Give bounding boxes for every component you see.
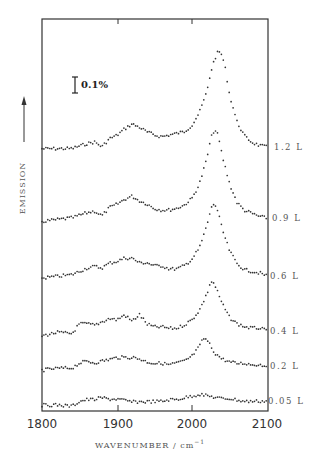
- data-point: [152, 264, 154, 266]
- data-point: [240, 130, 242, 132]
- plot-frame: [42, 19, 268, 411]
- data-point: [76, 365, 78, 367]
- data-point: [123, 127, 125, 129]
- data-point: [68, 333, 70, 335]
- data-point: [166, 363, 168, 365]
- data-point: [61, 147, 63, 149]
- data-point: [203, 233, 205, 235]
- data-point: [131, 194, 133, 196]
- data-point: [195, 314, 197, 316]
- data-point: [150, 402, 152, 404]
- data-point: [105, 143, 107, 145]
- data-point: [185, 204, 187, 206]
- data-point: [80, 400, 82, 402]
- data-point: [133, 318, 135, 320]
- data-point: [211, 347, 213, 349]
- data-point: [78, 363, 80, 365]
- series-label-0-05L: 0.05 L: [268, 396, 304, 406]
- data-point: [68, 148, 70, 150]
- data-point: [191, 354, 193, 356]
- data-point: [49, 276, 51, 278]
- data-point: [152, 363, 154, 365]
- data-point: [205, 393, 207, 395]
- data-point: [84, 400, 86, 402]
- data-point: [111, 205, 113, 207]
- data-point: [232, 255, 234, 257]
- data-point: [154, 363, 156, 365]
- data-point: [256, 328, 258, 330]
- data-point: [248, 139, 250, 141]
- data-point: [80, 144, 82, 146]
- data-point: [168, 135, 170, 137]
- data-point: [84, 360, 86, 362]
- data-point: [260, 402, 262, 404]
- data-point: [172, 398, 174, 400]
- data-point: [156, 326, 158, 328]
- data-point: [166, 399, 168, 401]
- data-point: [211, 134, 213, 136]
- data-point: [90, 398, 92, 400]
- x-tick-label-1800: 1800: [27, 417, 58, 431]
- data-point: [211, 395, 213, 397]
- data-point: [53, 219, 55, 221]
- data-point: [154, 264, 156, 266]
- data-point: [113, 398, 115, 400]
- data-point: [86, 269, 88, 271]
- data-point: [234, 114, 236, 116]
- data-point: [63, 332, 65, 334]
- data-point: [260, 144, 262, 146]
- data-point: [256, 365, 258, 367]
- data-point: [127, 197, 129, 199]
- data-point: [63, 406, 65, 408]
- data-point: [191, 318, 193, 320]
- data-point: [70, 333, 72, 335]
- data-point: [217, 132, 219, 134]
- data-point: [51, 368, 53, 370]
- data-point: [135, 318, 137, 320]
- data-point: [123, 314, 125, 316]
- data-point: [51, 148, 53, 150]
- data-point: [49, 334, 51, 336]
- data-point: [66, 367, 68, 369]
- data-point: [45, 221, 47, 223]
- data-point: [139, 358, 141, 360]
- data-point: [146, 131, 148, 133]
- data-point: [127, 316, 129, 318]
- data-point: [43, 334, 45, 336]
- data-point: [166, 267, 168, 269]
- data-point: [195, 396, 197, 398]
- data-point: [174, 269, 176, 271]
- data-point: [195, 349, 197, 351]
- data-point: [221, 223, 223, 225]
- data-point: [254, 400, 256, 402]
- data-point: [135, 198, 137, 200]
- data-point: [183, 204, 185, 206]
- data-point: [215, 397, 217, 399]
- data-point: [156, 135, 158, 137]
- data-point: [197, 394, 199, 396]
- data-point: [55, 219, 57, 221]
- data-point: [113, 262, 115, 264]
- data-point: [78, 213, 80, 215]
- data-point: [219, 356, 221, 358]
- data-point: [144, 360, 146, 362]
- data-point: [168, 363, 170, 365]
- data-point: [252, 364, 254, 366]
- data-point: [135, 260, 137, 262]
- data-point: [248, 210, 250, 212]
- x-tick-label-2000: 2000: [177, 417, 208, 431]
- data-point: [76, 403, 78, 405]
- data-point: [135, 357, 137, 359]
- data-point: [211, 69, 213, 71]
- data-point: [55, 274, 57, 276]
- data-point: [168, 269, 170, 271]
- data-point: [98, 144, 100, 146]
- data-point: [55, 366, 57, 368]
- data-point: [201, 304, 203, 306]
- data-point: [45, 333, 47, 335]
- data-point: [162, 364, 164, 366]
- data-point: [102, 321, 104, 323]
- data-point: [94, 400, 96, 402]
- data-point: [131, 320, 133, 322]
- data-point: [94, 324, 96, 326]
